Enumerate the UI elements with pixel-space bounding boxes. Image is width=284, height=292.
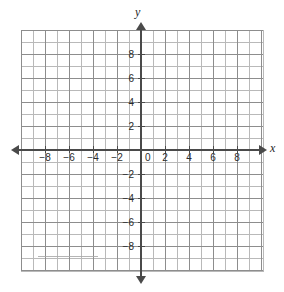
x-axis-tick-label: 2	[162, 152, 168, 163]
y-axis-line	[140, 30, 142, 282]
y-axis-arrow-up-icon	[136, 22, 146, 30]
coordinate-plane-figure: −8−6−4−22468−8−6−4−22468 0 x y	[0, 0, 284, 292]
y-axis-tick	[138, 246, 145, 247]
y-axis-tick-label: −6	[116, 217, 134, 228]
y-axis-tick-label: 8	[116, 49, 134, 60]
x-axis-arrow-right-icon	[259, 145, 267, 155]
y-axis-tick-label: 6	[116, 73, 134, 84]
x-axis-label: x	[270, 141, 275, 156]
x-axis-tick-label: −6	[63, 152, 74, 163]
y-axis-tick	[138, 198, 145, 199]
y-axis-tick-label: 2	[116, 121, 134, 132]
y-axis-tick-label: −8	[116, 241, 134, 252]
origin-label: 0	[145, 152, 151, 163]
y-axis-arrow-down-icon	[136, 276, 146, 284]
x-axis-tick-label: −2	[111, 152, 122, 163]
x-axis-line	[14, 149, 264, 151]
x-axis-tick-label: 8	[234, 152, 240, 163]
x-axis-tick-label: −8	[39, 152, 50, 163]
y-axis-tick	[138, 54, 145, 55]
y-axis-tick	[138, 126, 145, 127]
x-axis-arrow-left-icon	[11, 145, 19, 155]
scan-artifact-line	[38, 256, 98, 257]
y-axis-tick-label: −4	[116, 193, 134, 204]
y-axis-tick-label: 4	[116, 97, 134, 108]
x-axis-tick-label: 4	[186, 152, 192, 163]
y-axis-label: y	[135, 5, 140, 20]
x-axis-tick-label: −4	[87, 152, 98, 163]
y-axis-tick	[138, 102, 145, 103]
y-axis-tick	[138, 222, 145, 223]
y-axis-tick	[138, 78, 145, 79]
y-axis-tick-label: −2	[116, 169, 134, 180]
grid-background	[21, 30, 264, 272]
y-axis-tick	[138, 174, 145, 175]
x-axis-tick-label: 6	[210, 152, 216, 163]
